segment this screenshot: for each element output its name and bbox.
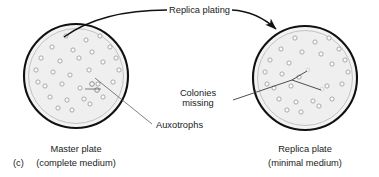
colonies-missing-label-line2: missing (182, 98, 214, 108)
replica-plate-medium (258, 31, 353, 126)
master-plate-caption-line1: Master plate (50, 144, 101, 154)
panel-letter: (c) (13, 158, 24, 168)
auxotrophs-label: Auxotrophs (156, 120, 203, 130)
master-plate-medium (29, 29, 124, 124)
master-plate-group (24, 24, 152, 128)
replica-plating-figure: Replica plating Colonies missing Auxotro… (0, 0, 379, 177)
replica-plate-group (233, 26, 357, 130)
replica-plating-label: Replica plating (169, 5, 230, 15)
colonies-missing-label-line1: Colonies (180, 88, 217, 98)
master-plate-caption-line2: (complete medium) (36, 158, 116, 168)
replica-plate-caption-line1: Replica plate (278, 144, 332, 154)
replica-plate-caption-line2: (minimal medium) (268, 158, 342, 168)
figure-canvas: Replica plating Colonies missing Auxotro… (0, 0, 379, 177)
